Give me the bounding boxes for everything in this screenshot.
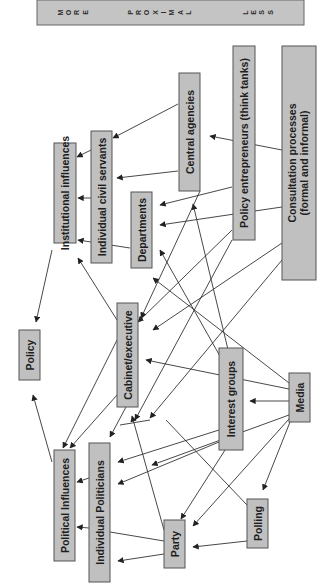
node-central-agencies: Central agencies bbox=[179, 73, 200, 191]
node-policy-entrepreneurs: Policy entrepreneurs (think tanks) bbox=[233, 46, 255, 240]
node-political-influences: Political Influences bbox=[54, 450, 75, 561]
node-polling: Polling bbox=[247, 499, 268, 548]
svg-text:Party: Party bbox=[169, 531, 181, 557]
svg-text:Central agencies: Central agencies bbox=[184, 90, 196, 174]
svg-text:(formal and informal): (formal and informal) bbox=[298, 110, 310, 215]
policy-influence-diagram: MORE PROXIMALLESS bbox=[0, 0, 332, 588]
proximity-scale-labels bbox=[37, 0, 304, 25]
node-cabinet-executive: Cabinet/executive bbox=[117, 303, 138, 407]
node-interest-groups: Interest groups bbox=[219, 348, 243, 450]
svg-text:Political Influences: Political Influences bbox=[59, 458, 71, 553]
node-individual-politicians: Individual Politicians bbox=[89, 443, 110, 582]
svg-text:Media: Media bbox=[294, 382, 306, 412]
svg-text:Departments: Departments bbox=[136, 198, 148, 262]
svg-text:Policy entrepreneurs (think ta: Policy entrepreneurs (think tanks) bbox=[238, 58, 250, 228]
svg-text:Interest groups: Interest groups bbox=[225, 361, 237, 438]
node-institutional-influences: Institutional influences bbox=[54, 136, 76, 251]
node-policy: Policy bbox=[19, 330, 40, 380]
svg-text:Individual Politicians: Individual Politicians bbox=[94, 460, 106, 565]
svg-text:Consultation processes: Consultation processes bbox=[286, 103, 298, 222]
svg-text:Institutional influences: Institutional influences bbox=[59, 136, 71, 251]
svg-text:Policy: Policy bbox=[24, 339, 36, 370]
svg-text:Cabinet/executive: Cabinet/executive bbox=[122, 310, 134, 399]
svg-text:Polling: Polling bbox=[252, 506, 264, 541]
node-consultation-processes: Consultation processes (formal and infor… bbox=[282, 46, 316, 280]
node-media: Media bbox=[289, 373, 310, 422]
node-party: Party bbox=[164, 520, 185, 568]
node-departments: Departments bbox=[131, 192, 152, 268]
node-individual-civil-servants: Individual civil servants bbox=[91, 131, 112, 263]
svg-text:Individual civil servants: Individual civil servants bbox=[96, 138, 108, 257]
